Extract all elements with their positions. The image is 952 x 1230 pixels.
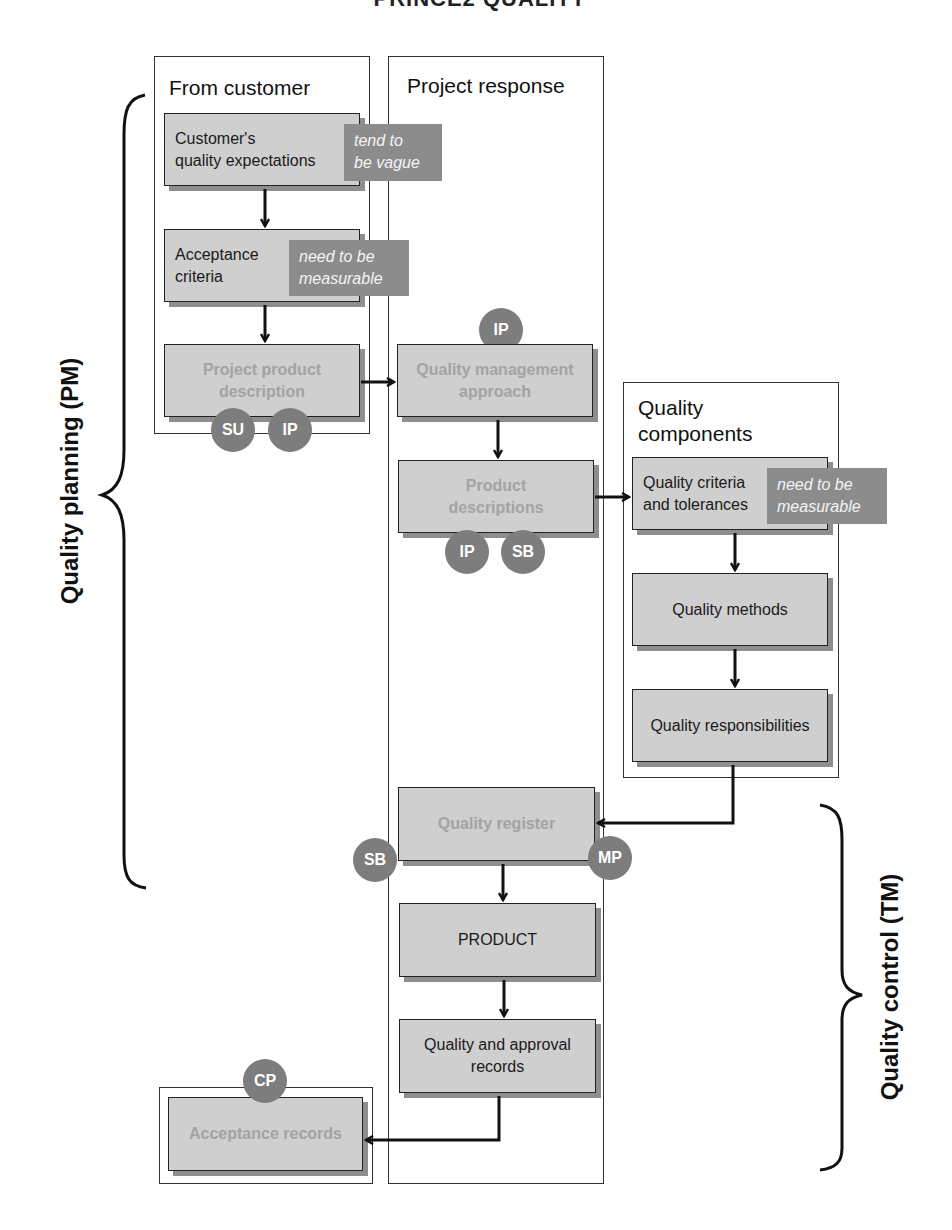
lane-title: Quality components: [638, 395, 752, 447]
node-product-descriptions[interactable]: Productdescriptions: [398, 460, 594, 533]
node-label: descriptions: [448, 497, 543, 519]
label-quality-control: Quality control (TM): [876, 867, 904, 1107]
node-acceptance-records[interactable]: Acceptance records: [168, 1097, 363, 1171]
note-line: tend to: [354, 130, 432, 152]
note-line: measurable: [299, 268, 399, 290]
node-project-product-description[interactable]: Project productdescription: [164, 344, 360, 417]
node-label: Quality register: [438, 813, 555, 835]
badge-mp: MP: [588, 836, 632, 880]
node-label: Acceptance: [175, 244, 259, 266]
brace-quality-planning: [102, 95, 146, 888]
node-customer-quality-expectations[interactable]: Customer'squality expectations: [164, 113, 360, 186]
node-label: approach: [416, 381, 573, 403]
badge-sb: SB: [353, 838, 397, 882]
note-need-to-be-measurable: need to bemeasurable: [767, 468, 887, 524]
note-line: measurable: [777, 496, 877, 518]
lane-title-line: components: [638, 421, 752, 447]
node-label: criteria: [175, 266, 259, 288]
node-quality-management-approach[interactable]: Quality managementapproach: [397, 344, 593, 417]
lane-project-response: Project response: [388, 56, 604, 1184]
badge-ip: IP: [445, 530, 489, 574]
note-need-to-be-measurable: need to bemeasurable: [289, 240, 409, 296]
node-quality-responsibilities[interactable]: Quality responsibilities: [632, 689, 828, 762]
brace-quality-control: [820, 805, 862, 1170]
badge-cp: CP: [243, 1059, 287, 1103]
node-label: PRODUCT: [458, 929, 537, 951]
badge-ip: IP: [268, 408, 312, 452]
badge-sb: SB: [501, 530, 545, 574]
node-label: quality expectations: [175, 150, 316, 172]
label-quality-planning: Quality planning (PM): [56, 351, 84, 611]
badge-su: SU: [211, 408, 255, 452]
note-line: need to be: [299, 246, 399, 268]
node-label: Customer's: [175, 128, 316, 150]
node-label: Quality and approval: [424, 1034, 571, 1056]
lane-title-line: Quality: [638, 395, 752, 421]
node-product[interactable]: PRODUCT: [399, 903, 596, 977]
lane-title: From customer: [169, 75, 310, 101]
node-label: Quality responsibilities: [650, 715, 809, 737]
diagram-title: PRINCE2 QUALITY: [300, 0, 660, 12]
lane-title: Project response: [407, 73, 565, 99]
node-label: description: [203, 381, 321, 403]
node-label: Quality criteria: [643, 472, 748, 494]
node-label: Quality methods: [672, 599, 788, 621]
note-tend-to-be-vague: tend tobe vague: [344, 124, 442, 181]
node-label: Project product: [203, 359, 321, 381]
node-label: Acceptance records: [189, 1123, 342, 1145]
note-line: be vague: [354, 152, 432, 174]
note-line: need to be: [777, 474, 877, 496]
node-quality-approval-records[interactable]: Quality and approvalrecords: [399, 1019, 596, 1093]
node-quality-register[interactable]: Quality register: [398, 787, 595, 861]
node-label: records: [424, 1056, 571, 1078]
node-label: and tolerances: [643, 494, 748, 516]
node-quality-methods[interactable]: Quality methods: [632, 573, 828, 646]
node-label: Product: [448, 475, 543, 497]
node-label: Quality management: [416, 359, 573, 381]
